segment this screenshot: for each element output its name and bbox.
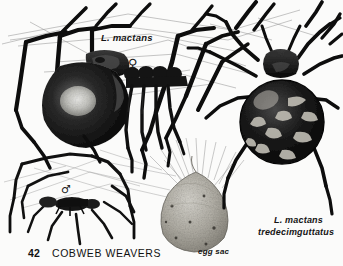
- label-egg-sac: egg sac: [198, 247, 229, 256]
- label-tredecimguttatus-line2: tredecimguttatus: [258, 227, 334, 237]
- male-symbol-icon: ♂: [61, 184, 71, 195]
- label-female-mactans: L. mactans: [101, 32, 153, 43]
- page-number: 42: [28, 247, 40, 259]
- illustration-plate: L. mactans ♀ ♂ L. mactans tredecimguttat…: [0, 0, 343, 266]
- section-title: COBWEB WEAVERS: [52, 247, 161, 259]
- female-symbol-icon: ♀: [128, 57, 138, 70]
- label-tredecimguttatus-line1: L. mactans: [274, 215, 323, 225]
